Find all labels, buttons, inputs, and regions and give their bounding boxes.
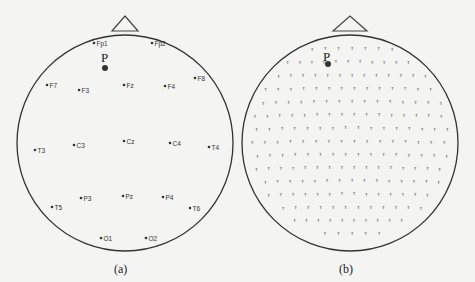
electrode-glyph: ᴛ	[328, 191, 331, 197]
electrode-glyph: ᴛ	[278, 112, 281, 118]
electrode-glyph: ᴛ	[403, 112, 406, 118]
electrode-label: P3	[84, 195, 92, 202]
electrode: T6	[189, 205, 201, 212]
electrode-glyph: ᴛ	[389, 191, 392, 197]
electrode-glyph: ᴛ	[338, 177, 341, 183]
electrode-glyph: ᴛ	[337, 45, 340, 51]
electrode-glyph: ᴛ	[437, 179, 440, 185]
electrode-glyph: ᴛ	[366, 138, 369, 144]
electrode-glyph: ᴛ	[394, 204, 397, 210]
electrode-glyph: ᴛ	[315, 85, 318, 91]
electrode-glyph: ᴛ	[281, 152, 284, 158]
electrode-glyph: ᴛ	[280, 191, 283, 197]
electrode: O2	[145, 235, 158, 242]
electrode-glyph: ᴛ	[407, 59, 410, 65]
electrode-dot	[80, 197, 83, 200]
nose-icon	[333, 16, 367, 31]
electrode-glyph: ᴛ	[353, 138, 356, 144]
electrode: O1	[100, 235, 113, 242]
electrode-glyph: ᴛ	[404, 138, 407, 144]
electrode-glyph: ᴛ	[401, 99, 404, 105]
electrode-glyph: ᴛ	[376, 217, 379, 223]
electrode-glyph: ᴛ	[268, 126, 271, 132]
electrode-dot	[208, 146, 211, 149]
electrode-glyph: ᴛ	[400, 217, 403, 223]
electrode-label: O2	[149, 235, 158, 242]
electrode-glyph: ᴛ	[254, 113, 257, 119]
electrode-dot	[123, 84, 126, 87]
electrode-glyph: ᴛ	[382, 204, 385, 210]
electrode-glyph: ᴛ	[332, 125, 335, 131]
electrode-glyph: ᴛ	[319, 204, 322, 210]
electrode-dot	[145, 237, 148, 240]
electrode-glyph: ᴛ	[389, 98, 392, 104]
electrode-label: F3	[82, 87, 90, 94]
electrode-glyph: ᴛ	[291, 112, 294, 118]
electrode-glyph: ᴛ	[314, 178, 317, 184]
electrode-glyph: ᴛ	[377, 45, 380, 51]
electrode-glyph: ᴛ	[353, 111, 356, 117]
electrode-glyph: ᴛ	[376, 98, 379, 104]
electrode-glyph: ᴛ	[341, 164, 344, 170]
electrode-label: F4	[168, 83, 176, 90]
electrode-glyph: ᴛ	[412, 72, 415, 78]
electrode-glyph: ᴛ	[413, 178, 416, 184]
electrode-glyph: ᴛ	[306, 125, 309, 131]
electrode-glyph: ᴛ	[347, 58, 350, 64]
electrode-glyph: ᴛ	[427, 112, 430, 118]
electrode-glyph: ᴛ	[391, 46, 394, 52]
electrode-dot	[169, 142, 172, 145]
electrode-glyph: ᴛ	[445, 153, 448, 159]
electrode-glyph: ᴛ	[251, 139, 254, 145]
electrode-glyph: ᴛ	[377, 164, 380, 170]
electrode-glyph: ᴛ	[400, 72, 403, 78]
electrode-glyph: ᴛ	[395, 151, 398, 157]
electrode-glyph: ᴛ	[370, 125, 373, 131]
electrode-dot	[51, 206, 54, 209]
electrode-glyph: ᴛ	[264, 86, 267, 92]
electrode-glyph: ᴛ	[378, 230, 381, 236]
electrode-glyph: ᴛ	[300, 99, 303, 105]
electrode-glyph: ᴛ	[279, 165, 282, 171]
head-outline	[242, 35, 458, 251]
electrode: T3	[34, 147, 46, 154]
electrode-glyph: ᴛ	[314, 72, 317, 78]
electrode-glyph: ᴛ	[298, 59, 301, 65]
electrode-glyph: ᴛ	[391, 138, 394, 144]
electrode-label: T5	[55, 204, 63, 211]
point-marker	[325, 61, 331, 67]
electrode: Cz	[123, 138, 135, 145]
electrode-grid: ᴛᴛᴛᴛᴛᴛᴛᴛᴛᴛᴛᴛᴛᴛᴛᴛᴛᴛᴛᴛᴛᴛᴛᴛᴛᴛᴛᴛᴛᴛᴛᴛᴛᴛᴛᴛᴛᴛᴛᴛ…	[251, 45, 449, 236]
electrode-glyph: ᴛ	[404, 85, 407, 91]
electrode-glyph: ᴛ	[255, 126, 258, 132]
electrode-glyph: ᴛ	[351, 72, 354, 78]
electrode-glyph: ᴛ	[390, 112, 393, 118]
electrode-glyph: ᴛ	[402, 165, 405, 171]
electrode-glyph: ᴛ	[363, 98, 366, 104]
electrode-glyph: ᴛ	[289, 178, 292, 184]
electrode-glyph: ᴛ	[426, 192, 429, 198]
electrode-glyph: ᴛ	[351, 177, 354, 183]
electrode-glyph: ᴛ	[438, 166, 441, 172]
electrode-glyph: ᴛ	[335, 58, 338, 64]
electrode-dot	[34, 149, 37, 152]
electrode-glyph: ᴛ	[417, 139, 420, 145]
electrode-glyph: ᴛ	[294, 204, 297, 210]
electrode: F4	[164, 83, 176, 90]
electrode-glyph: ᴛ	[426, 165, 429, 171]
electrode-glyph: ᴛ	[311, 46, 314, 52]
electrode-glyph: ᴛ	[290, 72, 293, 78]
electrode-glyph: ᴛ	[400, 178, 403, 184]
electrode-glyph: ᴛ	[388, 178, 391, 184]
electrode-glyph: ᴛ	[325, 98, 328, 104]
electrode-label: T4	[212, 144, 220, 151]
electrode-glyph: ᴛ	[313, 98, 316, 104]
electrode-glyph: ᴛ	[292, 191, 295, 197]
electrode-glyph: ᴛ	[316, 191, 319, 197]
electrode-glyph: ᴛ	[323, 230, 326, 236]
electrode-glyph: ᴛ	[267, 192, 270, 198]
electrode-label: Pz	[126, 193, 134, 200]
electrode-glyph: ᴛ	[427, 99, 430, 105]
electrode-glyph: ᴛ	[328, 164, 331, 170]
electrode-label: Cz	[127, 138, 135, 145]
